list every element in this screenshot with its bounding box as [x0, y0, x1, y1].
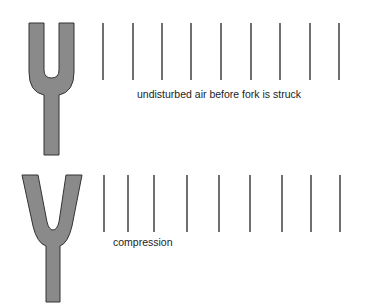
- tuning-fork-struck-icon: [22, 175, 82, 302]
- diagram-canvas: [0, 0, 366, 306]
- panel-compression: [22, 175, 340, 302]
- caption-undisturbed-air: undisturbed air before fork is struck: [137, 88, 301, 100]
- air-lines-undisturbed: [103, 23, 339, 80]
- caption-compression: compression: [113, 236, 173, 248]
- air-lines-compression: [104, 175, 340, 232]
- tuning-fork-rest-icon: [29, 23, 74, 155]
